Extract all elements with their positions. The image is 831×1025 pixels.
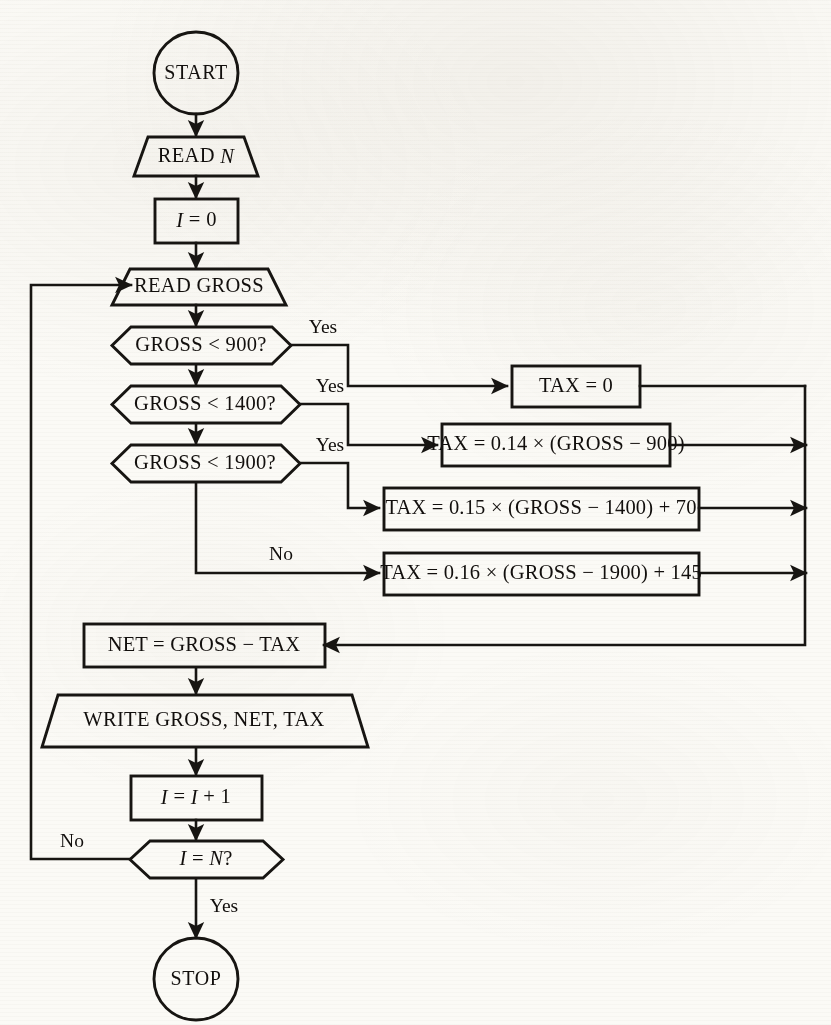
write-label: WRITE GROSS, NET, TAX [83,708,324,730]
node-tax-14[interactable]: TAX = 0.14 × (GROSS − 900) [427,424,685,466]
node-decision-loop[interactable]: I = N? [130,841,283,878]
tax-16-label: TAX = 0.16 × (GROSS − 1900) + 145 [380,561,702,584]
read-n-label: READ N [158,144,235,166]
node-decision-1400[interactable]: GROSS < 1400? [112,386,300,423]
branch-label-no-loop: No [60,830,84,851]
node-init-i[interactable]: I = 0 [155,199,238,243]
node-read-n[interactable]: READ N [134,137,258,176]
net-label: NET = GROSS − TAX [108,633,301,655]
tax-14-label: TAX = 0.14 × (GROSS − 900) [427,432,685,455]
decision-900-label: GROSS < 900? [135,333,266,355]
node-tax-zero[interactable]: TAX = 0 [512,366,640,407]
branch-label-yes-1900: Yes [316,434,344,455]
connectors [31,114,806,938]
increment-i-label: I = I + 1 [160,785,231,807]
tax-zero-label: TAX = 0 [539,374,613,396]
stop-label: STOP [171,967,222,989]
branch-label-yes-loop: Yes [210,895,238,916]
start-label: START [164,61,228,83]
decision-1400-label: GROSS < 1400? [134,392,276,414]
read-gross-label: READ GROSS [134,274,264,296]
tax-15-label: TAX = 0.15 × (GROSS − 1400) + 70 [385,496,696,519]
init-i-label: I = 0 [175,208,216,230]
node-increment-i[interactable]: I = I + 1 [131,776,262,820]
flowchart-page: START READ N I = 0 READ GROSS GROSS < 90… [0,0,831,1025]
node-write[interactable]: WRITE GROSS, NET, TAX [42,695,368,747]
branch-label-no-1900: No [269,543,293,564]
flowchart-canvas: START READ N I = 0 READ GROSS GROSS < 90… [0,0,831,1025]
node-decision-900[interactable]: GROSS < 900? [112,327,291,364]
node-start[interactable]: START [154,32,238,114]
decision-1900-label: GROSS < 1900? [134,451,276,473]
node-tax-16[interactable]: TAX = 0.16 × (GROSS − 1900) + 145 [380,553,702,595]
node-decision-1900[interactable]: GROSS < 1900? [112,445,300,482]
node-tax-15[interactable]: TAX = 0.15 × (GROSS − 1400) + 70 [384,488,699,530]
node-read-gross[interactable]: READ GROSS [112,269,286,305]
connector-loop-back-to-read-gross [31,285,131,859]
branch-label-yes-900: Yes [309,316,337,337]
node-stop[interactable]: STOP [154,938,238,1020]
connector-yes-1900-to-tax15 [300,463,379,508]
node-net[interactable]: NET = GROSS − TAX [84,624,325,667]
decision-loop-label: I = N? [178,847,232,869]
branch-label-yes-1400: Yes [316,375,344,396]
